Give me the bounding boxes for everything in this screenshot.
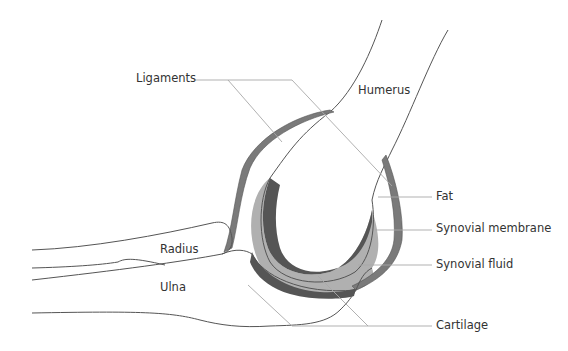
cartilage-label: Cartilage [436, 320, 488, 332]
synovial-membrane-label: Synovial membrane [436, 223, 551, 235]
ligaments-label: Ligaments [136, 73, 196, 85]
radius-tubercle [32, 259, 165, 268]
ulna-label: Ulna [160, 282, 186, 294]
synovial-fluid-label: Synovial fluid [436, 259, 513, 271]
radius-outline [32, 222, 232, 280]
humerus-label: Humerus [358, 85, 410, 97]
fat-label: Fat [436, 191, 453, 203]
left-ligament [224, 110, 334, 252]
radius-label: Radius [160, 244, 199, 256]
elbow-joint-diagram: Ligaments Humerus Fat Synovial membrane … [0, 0, 568, 351]
diagram-drawing [0, 0, 568, 351]
humerus-outline [261, 20, 448, 282]
